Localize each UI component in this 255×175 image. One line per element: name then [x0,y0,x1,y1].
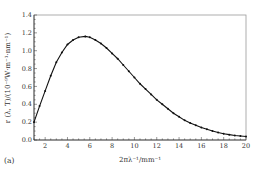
data-point [72,39,74,41]
data-point [161,103,163,105]
data-point [239,135,241,137]
data-point [156,99,158,101]
data-point [84,35,86,37]
data-point [206,128,208,130]
y-tick-label: 0.0 [22,136,32,144]
panel-label: (a) [4,156,14,165]
y-tick-label: 0.4 [22,100,32,108]
data-point [61,52,63,54]
data-point [217,131,219,133]
data-point [78,36,80,38]
data-point [66,43,68,45]
y-tick-label: 1.4 [22,11,32,19]
y-tick-label: 1.0 [22,47,32,55]
x-tick-label: 10 [130,142,138,150]
x-tick-label: 20 [242,142,250,150]
data-point [145,88,147,90]
data-point [189,122,191,124]
data-point [200,127,202,129]
data-point [33,121,35,123]
plot-frame [34,15,246,140]
x-axis-label: 2πλ⁻¹/mm⁻¹ [119,156,161,164]
data-point [111,52,113,54]
data-point [178,116,180,118]
data-series [33,35,247,137]
chart: 24681012141618200.00.20.40.60.81.01.21.4… [0,0,255,175]
data-point [39,105,41,107]
data-point [117,58,119,60]
data-point [106,47,108,49]
data-point [133,77,135,79]
x-tick-label: 8 [110,142,114,150]
data-point [128,70,130,72]
x-tick-label: 6 [88,142,92,150]
axis-ticks: 24681012141618200.00.20.40.60.81.01.21.4 [22,11,250,150]
data-point [150,93,152,95]
data-point [172,112,174,114]
y-tick-label: 0.2 [22,118,32,126]
y-tick-label: 0.6 [22,83,32,91]
x-tick-label: 16 [197,142,205,150]
data-point [50,75,52,77]
x-tick-label: 12 [153,142,161,150]
data-point [212,130,214,132]
y-tick-label: 0.8 [22,65,32,73]
data-point [94,39,96,41]
data-point [195,124,197,126]
data-point [223,133,225,135]
data-point [44,90,46,92]
data-point [228,134,230,136]
data-point [234,135,236,137]
data-point [122,64,124,66]
data-point [167,108,169,110]
x-tick-label: 4 [65,142,69,150]
y-tick-label: 1.2 [22,29,32,37]
data-point [245,135,247,137]
data-point [55,61,57,63]
x-tick-label: 14 [175,142,183,150]
data-point [100,43,102,45]
x-tick-label: 2 [43,142,47,150]
data-point [89,36,91,38]
x-tick-label: 18 [220,142,228,150]
data-point [139,83,141,85]
y-axis-label: r (λ, T)/(10⁻⁹W·m⁻¹·nm⁻¹) [4,33,12,124]
data-point [184,119,186,121]
